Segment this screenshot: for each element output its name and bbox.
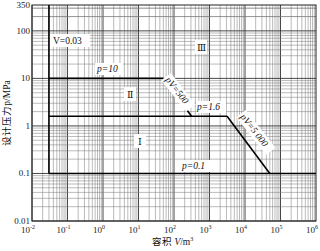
region-3-label: Ⅲ [197, 43, 206, 53]
y-tick: 100 [17, 26, 31, 36]
region-1-label: Ⅰ [138, 137, 142, 147]
y-tick: 10 [21, 73, 31, 83]
annotation-pv5000: pV=5 000 [238, 111, 270, 148]
y-tick: 0.1 [19, 168, 30, 178]
annotation-p10: p=10 [96, 64, 118, 74]
x-tick: 100 [93, 224, 105, 235]
annotation-p16: p=1.6 [196, 102, 220, 112]
x-tick: 105 [271, 224, 283, 235]
y-axis-title: 设计压力p/MPa [1, 80, 12, 146]
x-tick: 102 [164, 224, 176, 235]
x-axis-title: 容积 V/m3 [152, 236, 193, 247]
region-2-label: Ⅱ [127, 90, 133, 100]
x-tick-labels: 10-210-1100101102103104105106 [21, 224, 318, 235]
y-tick: 350 [17, 0, 31, 10]
y-tick: 1 [26, 121, 31, 131]
x-tick: 10-2 [21, 224, 35, 235]
annotation-p01: p=0.1 [181, 161, 205, 171]
annotation-v003: V=0.03 [53, 36, 82, 46]
x-tick: 10-1 [57, 224, 71, 235]
x-tick: 104 [235, 224, 247, 235]
x-tick: 106 [306, 224, 318, 235]
annotation-pv500: pV=500 [163, 74, 191, 106]
pressure-volume-chart: 350 100 10 1 0.1 0.01 10-210-11001011021… [0, 0, 320, 251]
x-tick: 101 [129, 224, 141, 235]
x-tick: 103 [200, 224, 212, 235]
y-tick-labels: 350 100 10 1 0.1 0.01 [14, 0, 30, 226]
